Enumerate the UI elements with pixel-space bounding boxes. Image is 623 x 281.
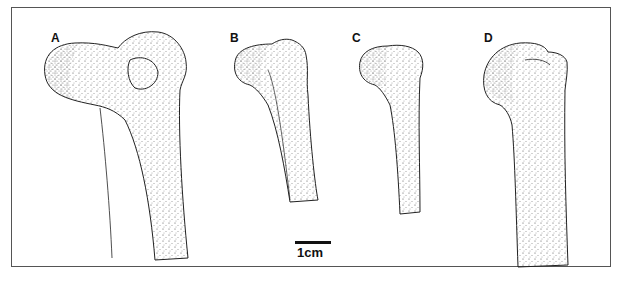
panel-label-a: A — [51, 31, 60, 45]
humerus-b — [235, 39, 318, 202]
panel-label-d: D — [484, 31, 493, 45]
humerus-d — [484, 43, 568, 267]
humerus-a — [45, 32, 188, 260]
scale-bar — [295, 241, 331, 244]
panel-label-c: C — [352, 31, 361, 45]
bone-illustrations — [0, 0, 623, 281]
panel-label-b: B — [230, 31, 239, 45]
humerus-c — [360, 45, 423, 214]
scale-bar-label: 1cm — [297, 245, 323, 260]
